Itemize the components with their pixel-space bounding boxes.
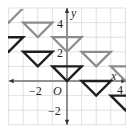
- y-axis-label: y: [70, 6, 77, 20]
- origin-label: O: [53, 84, 62, 98]
- y-tick-label-neg2: −2: [48, 104, 61, 118]
- x-tick-label-neg2: −2: [29, 84, 42, 98]
- x-axis-label: x: [110, 69, 117, 83]
- x-axis-arrow-left-icon: [9, 79, 14, 83]
- y-tick-label-2: 2: [57, 46, 63, 60]
- gray-triangle: [0, 8, 23, 23]
- y-axis-arrow-down-icon: [65, 120, 69, 125]
- x-tick-label-4: 4: [117, 83, 123, 97]
- coordinate-grid: y x O −2 4 4 2 −2: [0, 0, 140, 138]
- y-axis-arrow-up-icon: [65, 8, 69, 13]
- black-triangle: [0, 37, 23, 52]
- y-tick-label-4: 4: [57, 17, 63, 31]
